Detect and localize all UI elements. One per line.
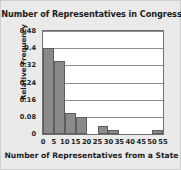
x-axis-title: Number of Representatives from a State — [1, 151, 181, 160]
x-axis-tick-label: 50 — [147, 138, 156, 146]
x-axis-tick-label: 5 — [52, 138, 57, 146]
x-axis-tick-label: 15 — [71, 138, 80, 146]
bar — [65, 113, 76, 134]
x-axis-tick-label: 45 — [136, 138, 145, 146]
y-axis-title: Relative Frequency — [20, 10, 28, 115]
bar-series — [43, 31, 163, 134]
x-axis-tick-label: 0 — [41, 138, 46, 146]
x-axis-tick-label: 30 — [104, 138, 113, 146]
chart-figure: Number of Representatives in Congress 00… — [0, 0, 181, 170]
bar — [54, 61, 65, 134]
bar — [98, 126, 109, 134]
bar — [43, 48, 54, 134]
x-axis-tick-label: 25 — [93, 138, 102, 146]
y-axis-title-wrapper: Relative Frequency — [5, 30, 17, 135]
x-axis-tick-labels: 0510152025303540455055 — [42, 138, 164, 150]
chart-title: Number of Representatives in Congress — [1, 9, 181, 19]
x-axis-tick-label: 10 — [60, 138, 69, 146]
x-axis-tick-label: 55 — [158, 138, 167, 146]
y-axis-tick-label: 0 — [31, 130, 36, 138]
bar — [108, 130, 119, 134]
x-axis-tick-label: 40 — [126, 138, 135, 146]
bar — [152, 130, 163, 134]
x-axis-tick-label: 35 — [115, 138, 124, 146]
x-axis-tick-label: 20 — [82, 138, 91, 146]
bar — [76, 117, 87, 134]
plot-area — [42, 30, 164, 135]
